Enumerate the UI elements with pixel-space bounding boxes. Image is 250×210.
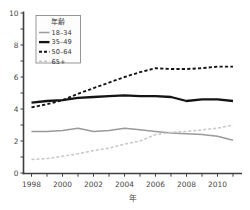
legend-label-1: 18–34 — [52, 29, 72, 37]
x-axis-title: 年 — [129, 193, 137, 203]
figure: 02468101998200020022004200620082010年年齢18… — [0, 0, 250, 210]
legend-label-4: 65+ — [52, 58, 66, 66]
x-tick-label: 2010 — [208, 180, 227, 189]
y-tick-label: 0 — [14, 169, 19, 178]
x-tick-label: 2006 — [146, 180, 165, 189]
y-tick-label: 8 — [14, 41, 19, 50]
series-line-2 — [32, 95, 234, 102]
x-tick-label: 1998 — [22, 180, 41, 189]
legend-label-2: 35–49 — [52, 38, 72, 46]
y-tick-label: 6 — [14, 73, 19, 82]
x-tick-label: 2002 — [84, 180, 103, 189]
y-tick-label: 10 — [9, 9, 19, 18]
y-tick-label: 2 — [14, 137, 19, 146]
y-tick-label: 4 — [14, 105, 19, 114]
x-tick-label: 2000 — [53, 180, 72, 189]
legend-label-3: 50–64 — [52, 48, 72, 56]
line-chart: 02468101998200020022004200620082010年年齢18… — [0, 0, 250, 210]
x-tick-label: 2008 — [177, 180, 196, 189]
legend-title: 年齢 — [51, 17, 65, 26]
series-line-1 — [32, 128, 234, 140]
x-tick-label: 2004 — [115, 180, 134, 189]
